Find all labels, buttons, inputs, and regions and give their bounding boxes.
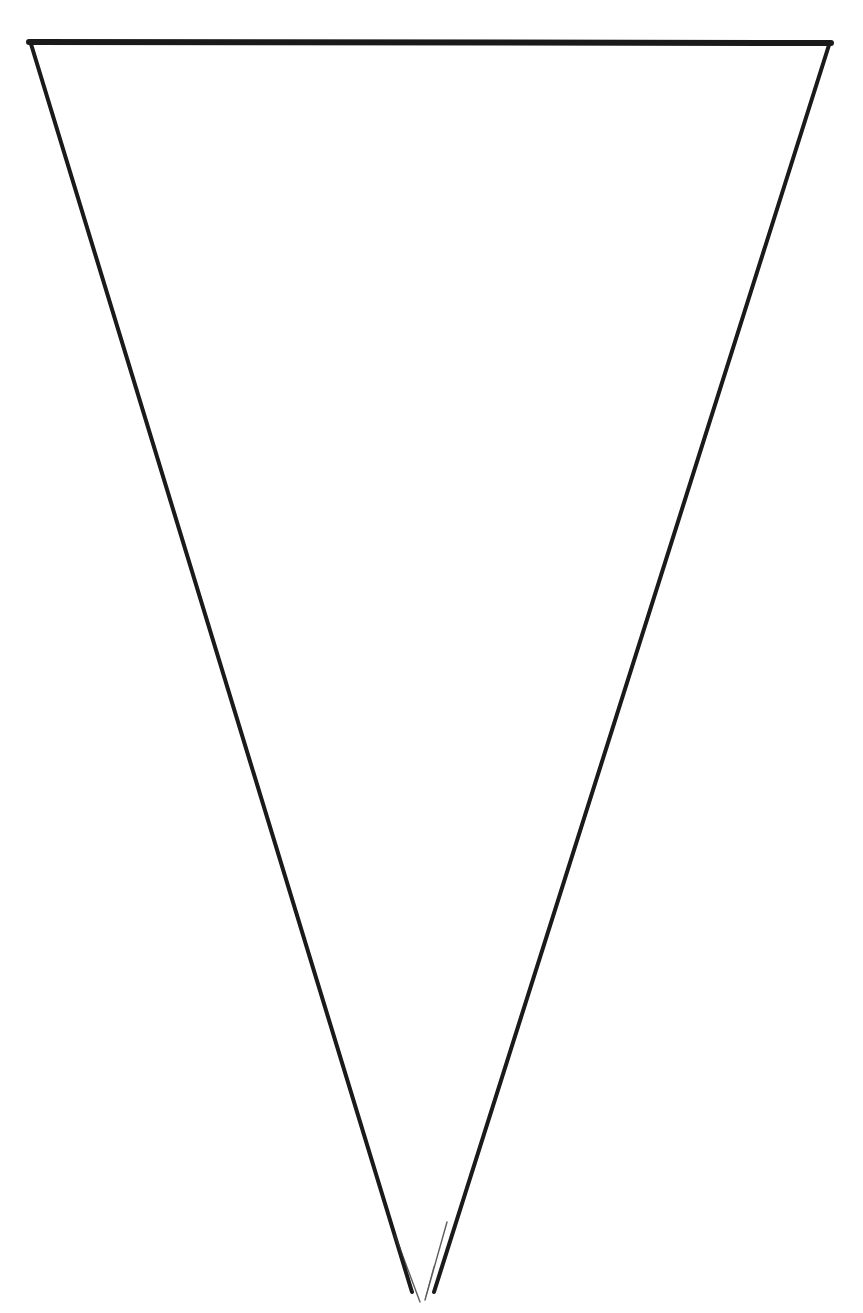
pennant-top-edge <box>29 42 831 43</box>
background <box>0 0 863 1313</box>
pennant-triangle-drawing <box>0 0 863 1313</box>
